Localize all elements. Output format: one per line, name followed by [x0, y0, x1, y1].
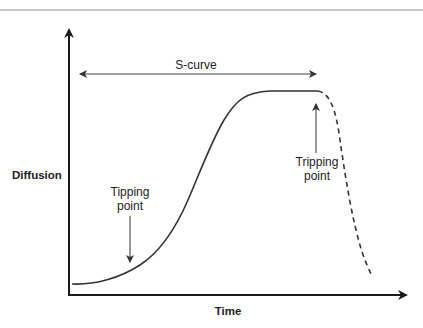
s-curve-dashed-decline [318, 91, 372, 276]
s-curve-diagram: S-curve Tipping point Tripping point Dif… [0, 0, 423, 328]
tipping-point-label-line2: point [117, 199, 144, 213]
y-axis-label: Diffusion [12, 169, 62, 181]
s-curve-label: S-curve [175, 58, 217, 72]
diagram-page: S-curve Tipping point Tripping point Dif… [0, 0, 423, 328]
tripping-point-label-line1: Tripping [296, 155, 339, 169]
x-axis-label: Time [215, 305, 242, 317]
s-curve-solid [72, 91, 318, 284]
tripping-point-label-line2: point [304, 169, 331, 183]
tipping-point-label-line1: Tipping [111, 185, 150, 199]
